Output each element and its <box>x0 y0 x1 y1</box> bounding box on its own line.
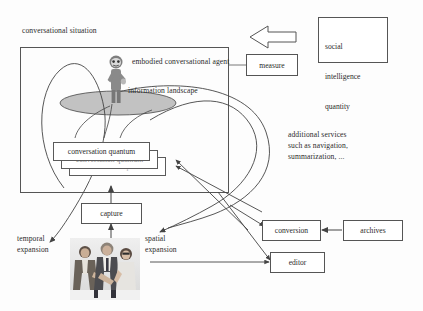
temporal-expansion-label-line1: temporal <box>17 234 45 243</box>
information-landscape-label: information landscape <box>128 86 198 95</box>
quantum-to-conversion-arrow <box>230 205 264 226</box>
spatial-expansion-arc <box>150 101 257 232</box>
conversation-quantum-box-1[interactable]: conversation quantum <box>53 142 150 161</box>
measure-box[interactable]: measure <box>246 54 298 76</box>
three-people-conversation-photo <box>70 238 140 300</box>
conversational-situation-label: conversational situation <box>22 26 97 35</box>
additional-services-label-line2: such as navigation, <box>288 141 348 150</box>
social-line-1: social <box>325 42 381 52</box>
archives-box[interactable]: archives <box>343 220 403 241</box>
additional-services-label-line3: summarization, ... <box>288 152 344 161</box>
diagram-canvas: conversational situation embodied conver… <box>0 0 423 311</box>
embodied-agent-label: embodied conversational agent <box>132 57 229 66</box>
embodied-agent-figure <box>104 55 128 107</box>
social-line-2: intelligence <box>325 72 381 82</box>
spatial-expansion-label-line2: expansion <box>145 245 177 254</box>
spatial-expansion-label-line1: spatial <box>145 234 166 243</box>
block-arrow-left-icon <box>250 26 296 48</box>
social-line-3: quantity <box>325 102 381 112</box>
conversion-box[interactable]: conversion <box>262 220 321 241</box>
temporal-expansion-label-line2: expansion <box>17 245 49 254</box>
social-intelligence-quantity-box[interactable]: social intelligence quantity <box>318 17 388 63</box>
editor-box[interactable]: editor <box>270 252 325 273</box>
capture-box[interactable]: capture <box>81 203 142 224</box>
